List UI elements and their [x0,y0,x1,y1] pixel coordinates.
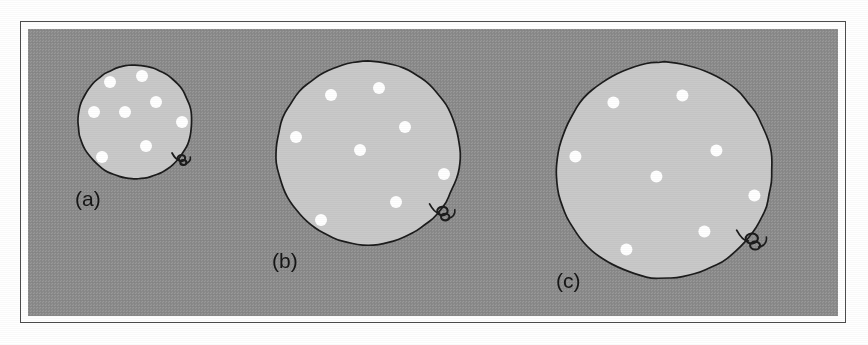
dot [399,121,411,133]
dot [676,89,688,101]
dot [373,82,385,94]
dot [150,96,162,108]
dot [569,150,581,162]
balloon-label-a: (a) [75,188,101,209]
dot [119,106,131,118]
knot-tail [448,209,456,220]
balloon-a [50,37,220,207]
dot [88,106,100,118]
dot [354,144,366,156]
dot [290,131,302,143]
dot [96,151,108,163]
knot-loop-lower [180,160,187,165]
knot-tail [758,235,767,248]
dot [650,170,662,182]
balloon-label-b: (b) [272,250,298,271]
balloon-body [556,61,772,278]
dot [325,89,337,101]
balloon-drawing [50,37,220,207]
dot [748,189,760,201]
balloon-b [248,33,488,273]
dot [176,116,188,128]
dot [620,243,632,255]
figure-root: (a)(b)(c) [0,0,868,345]
dot [315,214,327,226]
knot-loop-lower [749,241,760,250]
dot [390,196,402,208]
balloon-label-c: (c) [556,270,581,291]
balloon-drawing [248,33,488,273]
dot [438,168,450,180]
dot [104,76,116,88]
dot [140,140,152,152]
dot [710,144,722,156]
balloon-body [276,61,460,245]
dot [607,96,619,108]
dot [698,225,710,237]
dot [136,70,148,82]
balloon-body [78,65,192,179]
knot-loop-lower [441,213,450,220]
